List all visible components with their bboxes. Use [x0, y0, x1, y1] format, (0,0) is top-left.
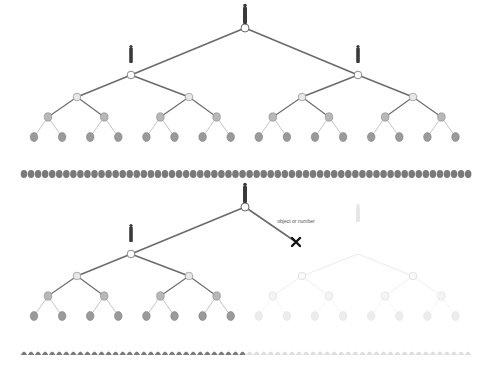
leaf-node — [465, 170, 472, 178]
leaf-node — [253, 170, 260, 178]
faded-person-icon — [356, 204, 360, 222]
tree-node — [354, 71, 362, 79]
tree-node — [58, 312, 66, 321]
leaf-node — [84, 170, 91, 178]
tree-node — [424, 312, 432, 321]
leaf-node — [232, 170, 239, 178]
leaf-node — [211, 170, 218, 178]
tree-node — [325, 113, 333, 121]
leaf-node — [91, 352, 97, 356]
right-person-icon — [356, 45, 360, 63]
root-person-icon — [243, 4, 247, 24]
tree-edge — [131, 207, 245, 254]
tree-edge — [302, 254, 358, 276]
leaf-node — [423, 352, 429, 356]
leaf-node — [373, 170, 380, 178]
leaf-node — [296, 170, 303, 178]
tree-node — [86, 133, 94, 142]
leaf-node — [268, 352, 274, 356]
tree-node — [100, 292, 108, 300]
leaf-node — [204, 352, 210, 356]
tree-edge — [131, 254, 189, 276]
leaf-node — [261, 352, 267, 356]
leaf-node — [28, 352, 34, 356]
leaf-node — [387, 170, 394, 178]
leaf-node — [112, 170, 119, 178]
leaf-node — [465, 352, 471, 356]
tree-node — [298, 93, 306, 101]
leaf-node — [218, 352, 224, 356]
tree-node — [44, 113, 52, 121]
leaf-node — [120, 352, 126, 356]
leaf-node — [225, 352, 231, 356]
leaf-node — [42, 170, 49, 178]
tree-node — [171, 312, 179, 321]
leaf-node — [141, 352, 147, 356]
leaf-node — [28, 170, 35, 178]
tree-node — [115, 312, 123, 321]
leaf-node — [416, 170, 423, 178]
leaf-node — [232, 352, 238, 356]
leaf-node — [437, 352, 443, 356]
leaf-node — [352, 170, 359, 178]
leaf-node — [190, 352, 196, 356]
leaf-node — [345, 352, 351, 356]
leaf-node — [289, 170, 296, 178]
leaf-node — [190, 170, 197, 178]
leaf-node — [352, 352, 358, 356]
root-person-icon — [243, 183, 247, 203]
leaf-node — [296, 352, 302, 356]
leaf-node — [63, 352, 69, 356]
leaf-node — [289, 352, 295, 356]
leaf-node — [98, 352, 104, 356]
leaf-node — [63, 170, 70, 178]
leaf-node — [148, 352, 154, 356]
leaf-node — [204, 170, 211, 178]
tree-node — [452, 133, 460, 142]
leaf-node — [387, 352, 393, 356]
leaf-node — [303, 352, 309, 356]
leaf-node — [77, 352, 83, 356]
tree-node — [311, 133, 319, 142]
leaf-node — [225, 170, 232, 178]
leaf-node — [380, 352, 386, 356]
leaf-node — [338, 170, 345, 178]
tree-node — [409, 272, 417, 280]
leaf-node — [21, 170, 28, 178]
leaf-node — [331, 352, 337, 356]
tree-node — [44, 292, 52, 300]
leaf-node — [423, 170, 430, 178]
tree-edge — [273, 97, 302, 117]
leaf-node — [126, 170, 133, 178]
diagram-canvas: object or number — [0, 0, 496, 376]
leaf-node — [430, 170, 437, 178]
leaf-node — [134, 352, 140, 356]
leaf-node — [134, 170, 141, 178]
leaf-node — [408, 170, 415, 178]
leaf-node — [444, 352, 450, 356]
tree-node — [30, 133, 38, 142]
leaf-node — [310, 352, 316, 356]
leaf-node — [401, 170, 408, 178]
left-person-icon — [129, 45, 133, 63]
tree-edge — [245, 28, 358, 75]
leaf-node — [21, 352, 27, 356]
tree-node — [185, 93, 193, 101]
tree-edge — [189, 276, 217, 296]
leaf-node — [84, 352, 90, 356]
leaf-node — [317, 352, 323, 356]
leaf-node — [246, 352, 252, 356]
leaf-node — [77, 170, 84, 178]
leaf-node — [35, 170, 42, 178]
leaf-node — [42, 352, 48, 356]
tree-node — [367, 133, 375, 142]
tree-node — [255, 133, 263, 142]
leaf-node — [183, 352, 189, 356]
leaf-node — [218, 170, 225, 178]
leaf-node — [98, 170, 105, 178]
leaf-node — [211, 352, 217, 356]
tree-edge — [385, 97, 413, 117]
tree-diagram — [0, 0, 496, 376]
leaf-node — [359, 352, 365, 356]
tree-node — [115, 133, 123, 142]
